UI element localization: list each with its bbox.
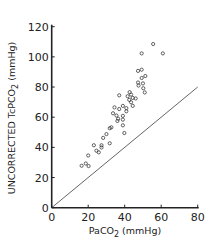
y-tick-label: 40: [35, 141, 49, 154]
data-point: [80, 164, 83, 167]
x-axis-label: PaCO2 (mmHg): [89, 225, 161, 239]
data-point: [143, 91, 146, 94]
data-point: [137, 84, 140, 87]
y-tick-label: 120: [28, 21, 49, 34]
data-point: [121, 118, 124, 121]
data-point: [129, 93, 132, 96]
data-point: [131, 104, 134, 107]
data-point: [161, 52, 164, 55]
data-point: [121, 114, 124, 117]
data-point: [136, 81, 139, 84]
data-point: [92, 144, 95, 147]
y-tick-label: 20: [35, 172, 49, 185]
data-point: [113, 106, 116, 109]
data-point: [118, 94, 121, 97]
data-point: [140, 68, 143, 71]
data-point: [142, 87, 145, 90]
data-point: [121, 124, 124, 127]
x-tick-label: 20: [81, 211, 95, 224]
data-point: [87, 154, 90, 157]
data-points: [80, 42, 164, 167]
data-point: [105, 132, 108, 135]
data-point: [140, 52, 143, 55]
data-point: [121, 104, 124, 107]
data-point: [123, 131, 126, 134]
data-point: [87, 164, 90, 167]
plot-area: [52, 87, 198, 208]
x-tick-label: 0: [48, 211, 55, 224]
data-point: [118, 107, 121, 110]
data-point: [102, 136, 105, 139]
y-tick-label: 60: [35, 111, 49, 124]
data-point: [141, 82, 144, 85]
data-point: [136, 69, 139, 72]
identity-line: [52, 87, 198, 208]
y-tick-label: 80: [35, 81, 49, 94]
y-tick-label: 100: [28, 51, 49, 64]
data-point: [108, 142, 111, 145]
data-point: [111, 112, 114, 115]
data-point: [126, 95, 129, 98]
x-tick-label: 40: [118, 211, 132, 224]
y-axis-label: UNCORRECTED TcPCO2 (mmHg): [6, 42, 20, 195]
scatter-chart: 020406080100120020406080 PaCO2 (mmHg) UN…: [0, 0, 216, 247]
data-point: [140, 76, 143, 79]
x-tick-label: 60: [154, 211, 168, 224]
data-point: [144, 74, 147, 77]
data-point: [152, 42, 155, 45]
data-point: [100, 146, 103, 149]
data-point: [125, 110, 128, 113]
data-point: [129, 101, 132, 104]
x-tick-label: 80: [191, 211, 205, 224]
data-point: [115, 114, 118, 117]
data-point: [97, 151, 100, 154]
data-point: [125, 107, 128, 110]
data-point: [84, 162, 87, 165]
